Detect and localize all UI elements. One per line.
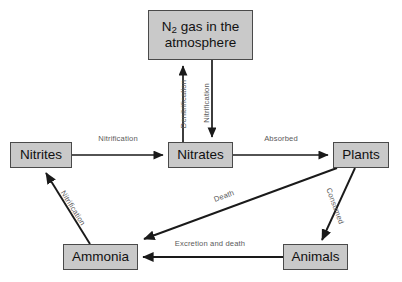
node-atmosphere-label-n: N xyxy=(162,19,172,34)
arrow-nitrification-ammonia-nitrites xyxy=(46,173,90,244)
node-atmosphere[interactable]: N2 gas in the atmosphere xyxy=(148,10,253,60)
node-atmosphere-label-line2: atmosphere xyxy=(165,35,236,50)
node-ammonia[interactable]: Ammonia xyxy=(63,244,138,270)
node-atmosphere-label-rest: gas in the xyxy=(177,19,239,34)
node-nitrates-label: Nitrates xyxy=(169,147,232,163)
node-atmosphere-label: N2 gas in the atmosphere xyxy=(149,19,252,52)
nitrogen-cycle-diagram: N2 gas in the atmosphere Nitrites Nitrat… xyxy=(0,0,402,282)
node-nitrites[interactable]: Nitrites xyxy=(10,142,72,168)
node-ammonia-label: Ammonia xyxy=(64,249,137,265)
node-animals[interactable]: Animals xyxy=(283,244,348,270)
arrow-death xyxy=(144,168,337,239)
arrow-consumed xyxy=(322,168,355,240)
node-plants[interactable]: Plants xyxy=(333,142,389,168)
node-plants-label: Plants xyxy=(334,147,388,163)
node-nitrites-label: Nitrites xyxy=(11,147,71,163)
node-animals-label: Animals xyxy=(284,249,347,265)
node-nitrates[interactable]: Nitrates xyxy=(168,142,233,168)
